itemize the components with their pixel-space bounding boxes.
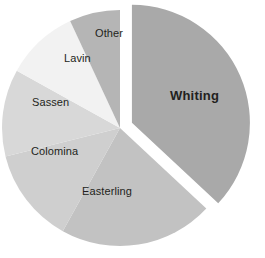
pie-slices	[2, 5, 250, 246]
pie-label-other: Other	[95, 27, 123, 39]
pie-label-easterling: Easterling	[82, 185, 132, 197]
pie-label-colomina: Colomina	[31, 145, 78, 157]
pie-label-sassen: Sassen	[32, 96, 69, 108]
pie-chart: Whiting Easterling Colomina Sassen Lavin…	[0, 0, 265, 258]
pie-label-whiting: Whiting	[170, 90, 219, 102]
pie-chart-canvas	[0, 0, 265, 258]
pie-label-lavin: Lavin	[64, 52, 91, 64]
